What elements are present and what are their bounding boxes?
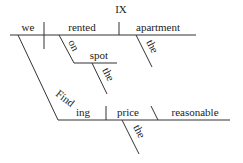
preposition-word: on	[66, 37, 82, 53]
sentence-diagram: IX we rented apartment the on spot the F…	[0, 0, 243, 163]
complement-word: reasonable	[171, 106, 218, 118]
object-modifier-word: the	[144, 37, 161, 55]
prep-object-word: spot	[90, 49, 108, 61]
subject-word: we	[22, 21, 35, 33]
gerund-object-modifier-word: the	[131, 122, 148, 140]
complement-divider	[151, 106, 158, 120]
gerund-stilt-line	[18, 35, 58, 120]
diagram-title: IX	[115, 3, 127, 15]
prep-object-modifier-word: the	[100, 65, 117, 83]
verb-word: rented	[68, 21, 96, 33]
gerund-object-word: price	[117, 106, 139, 118]
gerund-stem-word: Find	[54, 87, 78, 109]
object-word: apartment	[136, 21, 180, 33]
gerund-suffix-word: ing	[76, 106, 91, 118]
